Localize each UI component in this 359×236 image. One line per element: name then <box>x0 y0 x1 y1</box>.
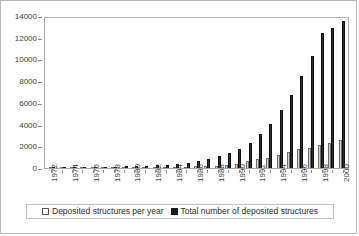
x-axis-slot <box>140 170 150 202</box>
y-axis-tick-label: 10000 <box>15 56 37 64</box>
x-axis-tick-mark <box>124 170 125 173</box>
y-axis-tick-label: 14000 <box>15 13 37 21</box>
bar-group <box>295 18 305 168</box>
bar-group <box>47 18 57 168</box>
x-axis-tick-mark <box>332 170 333 173</box>
x-tick-labels: 1972197419761978198019821984198619881990… <box>44 170 349 202</box>
bar-group <box>78 18 88 168</box>
x-axis-tick-mark <box>186 170 187 173</box>
x-axis-slot: 1972 <box>46 170 56 202</box>
y-axis-tick-mark <box>38 147 42 148</box>
x-axis-slot: 1974 <box>67 170 77 202</box>
x-axis-slot <box>119 170 129 202</box>
chart-legend: Deposited structures per yearTotal numbe… <box>26 204 334 219</box>
bar-group <box>306 18 316 168</box>
x-axis-slot: 1978 <box>108 170 118 202</box>
x-axis-slot: 1992 <box>254 170 264 202</box>
y-axis-tick-label: 2000 <box>19 143 37 151</box>
x-axis-slot: 1994 <box>275 170 285 202</box>
bar-group <box>326 18 336 168</box>
legend-entry: Total number of deposited structures <box>171 207 319 216</box>
plot-area <box>44 17 349 169</box>
bar-total-deposited <box>300 76 303 168</box>
bar-group <box>202 18 212 168</box>
bar-group <box>316 18 326 168</box>
y-axis-tick-mark <box>38 104 42 105</box>
bar-total-deposited <box>104 167 107 168</box>
x-axis-tick-mark <box>249 170 250 173</box>
x-axis-slot <box>98 170 108 202</box>
x-axis-tick-mark <box>166 170 167 173</box>
x-axis-slot: 1986 <box>192 170 202 202</box>
chart-figure: 02000400060008000100001200014000 1972197… <box>0 0 357 234</box>
bar-total-deposited <box>269 124 272 168</box>
y-axis: 02000400060008000100001200014000 <box>1 11 42 175</box>
x-axis-tick-mark <box>311 170 312 173</box>
x-axis-slot <box>181 170 191 202</box>
x-axis-slot <box>77 170 87 202</box>
bar-total-deposited <box>280 110 283 168</box>
bar-series-container <box>45 18 348 168</box>
bar-total-deposited <box>290 95 293 168</box>
x-axis-slot: 1980 <box>129 170 139 202</box>
bar-group <box>161 18 171 168</box>
bar-group <box>233 18 243 168</box>
bar-group <box>213 18 223 168</box>
bar-group <box>130 18 140 168</box>
bar-total-deposited <box>342 21 345 168</box>
y-axis-tick-mark <box>38 169 42 170</box>
x-axis-slot <box>244 170 254 202</box>
x-axis-slot: 1976 <box>88 170 98 202</box>
x-axis: 1972197419761978198019821984198619881990… <box>44 170 349 202</box>
x-axis-tick-mark <box>103 170 104 173</box>
y-axis-tick-mark <box>38 39 42 40</box>
x-axis-slot: 1984 <box>171 170 181 202</box>
legend-label: Deposited structures per year <box>52 207 164 216</box>
bar-total-deposited <box>249 143 252 169</box>
y-axis-tick-label: 12000 <box>15 35 37 43</box>
bar-group <box>264 18 274 168</box>
x-axis-slot: 1990 <box>233 170 243 202</box>
bar-group <box>181 18 191 168</box>
x-axis-slot <box>202 170 212 202</box>
x-axis-slot <box>285 170 295 202</box>
bar-total-deposited <box>145 166 148 168</box>
x-axis-slot: 1988 <box>213 170 223 202</box>
y-axis-tick-label: 4000 <box>19 122 37 130</box>
bar-group <box>171 18 181 168</box>
legend-label: Total number of deposited structures <box>181 207 319 216</box>
bar-total-deposited <box>321 33 324 168</box>
bar-total-deposited <box>331 28 334 168</box>
x-axis-slot <box>223 170 233 202</box>
bar-total-deposited <box>228 153 231 168</box>
x-axis-slot <box>265 170 275 202</box>
bar-group <box>223 18 233 168</box>
bar-group <box>275 18 285 168</box>
y-axis-tick-mark <box>38 126 42 127</box>
x-axis-tick-mark <box>228 170 229 173</box>
bar-total-deposited <box>259 134 262 168</box>
bar-total-deposited <box>187 163 190 168</box>
x-axis-slot: 1998 <box>317 170 327 202</box>
x-axis-tick-mark <box>207 170 208 173</box>
x-axis-slot <box>56 170 66 202</box>
bar-total-deposited <box>207 159 210 168</box>
bar-group <box>192 18 202 168</box>
x-axis-slot <box>327 170 337 202</box>
x-axis-tick-mark <box>82 170 83 173</box>
bar-total-deposited <box>166 165 169 168</box>
legend-entry: Deposited structures per year <box>42 207 164 216</box>
x-axis-tick-mark <box>291 170 292 173</box>
x-axis-slot: 2000 <box>337 170 347 202</box>
bar-group <box>254 18 264 168</box>
y-axis-tick-label: 0 <box>33 165 37 173</box>
x-axis-slot <box>160 170 170 202</box>
x-axis-tick-mark <box>145 170 146 173</box>
x-axis-tick-label: 2000 <box>343 164 351 182</box>
bar-group <box>119 18 129 168</box>
y-axis-tick-label: 6000 <box>19 100 37 108</box>
x-axis-tick-mark <box>62 170 63 173</box>
y-axis-tick-mark <box>38 82 42 83</box>
x-axis-tick-mark <box>270 170 271 173</box>
y-axis-tick-mark <box>38 60 42 61</box>
